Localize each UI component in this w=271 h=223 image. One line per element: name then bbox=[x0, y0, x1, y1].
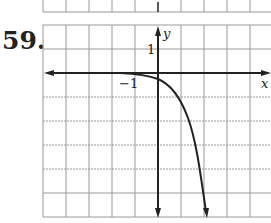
x-axis-label: x bbox=[261, 76, 268, 91]
tick-label-x-neg1: −1 bbox=[119, 76, 138, 91]
graph bbox=[0, 0, 271, 223]
y-axis-label: y bbox=[163, 26, 170, 41]
function-curve bbox=[120, 73, 206, 212]
axes bbox=[44, 2, 271, 218]
tick-label-y-1: 1 bbox=[147, 42, 155, 57]
